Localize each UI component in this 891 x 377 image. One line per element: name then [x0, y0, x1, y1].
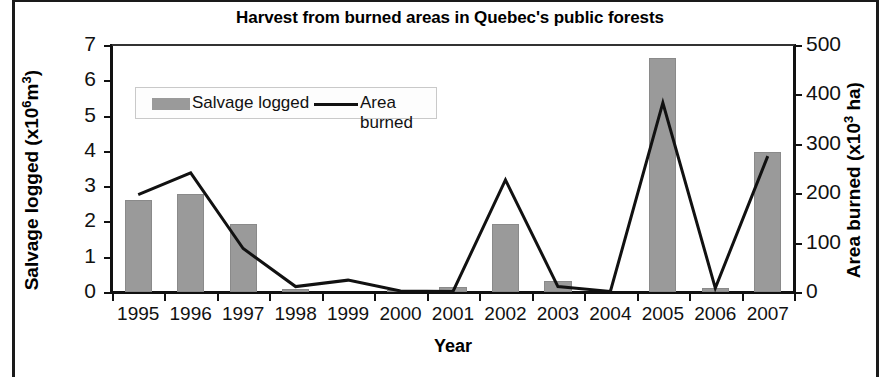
x-axis-tick-label: 2000: [373, 303, 429, 325]
y-axis-left-tick-label: 3: [68, 173, 96, 197]
y-axis-left-tick: [104, 186, 112, 188]
y-axis-right-tick: [794, 193, 802, 195]
y-axis-left-title-exp2: 3: [19, 76, 34, 83]
y-axis-left-title-text: Salvage logged (x10: [21, 108, 42, 291]
x-axis-tick: [322, 292, 324, 301]
x-axis-tick: [374, 292, 376, 301]
y-axis-left-tick: [104, 221, 112, 223]
x-axis-tick: [637, 292, 639, 301]
plot-area: [112, 45, 794, 292]
chart-legend: Salvage logged Area burned: [135, 87, 437, 119]
y-axis-right-tick-label: 500: [806, 32, 841, 56]
x-axis-tick-label: 2003: [530, 303, 586, 325]
y-axis-right-tick-label: 300: [806, 131, 841, 155]
y-axis-left-tick: [104, 151, 112, 153]
y-axis-right-tick-label: 100: [806, 230, 841, 254]
figure-border-left: [12, 0, 15, 377]
y-axis-right-title: Area burned (x103 ha): [841, 45, 865, 315]
y-axis-left-title: Salvage logged (x106m3): [19, 45, 43, 315]
figure-border-right: [876, 0, 879, 377]
y-axis-right-tick: [794, 144, 802, 146]
y-axis-right-tick: [794, 243, 802, 245]
y-axis-right-tick: [794, 94, 802, 96]
x-axis-tick: [217, 292, 219, 301]
line-series-area-burned: [112, 45, 794, 292]
x-axis-tick: [794, 292, 796, 301]
y-axis-right-title-exp: 3: [841, 116, 856, 123]
x-axis-tick-label: 1998: [268, 303, 324, 325]
x-axis-tick: [427, 292, 429, 301]
x-axis-tick-label: 1997: [215, 303, 271, 325]
y-axis-right-tick: [794, 45, 802, 47]
y-axis-left-tick: [104, 292, 112, 294]
x-axis-tick-label: 1996: [163, 303, 219, 325]
x-axis-tick: [112, 292, 114, 301]
legend-label-area-burned: Area burned: [360, 93, 436, 133]
y-axis-right-tick-label: 0: [806, 279, 818, 303]
y-axis-left-tick-label: 1: [68, 244, 96, 268]
x-axis-tick: [689, 292, 691, 301]
y-axis-left-tick-label: 2: [68, 208, 96, 232]
y-axis-left-tick: [104, 257, 112, 259]
y-axis-left-tick-label: 7: [68, 32, 96, 56]
x-axis-tick-label: 1995: [110, 303, 166, 325]
legend-line-area-burned: [314, 103, 358, 106]
x-axis-tick: [269, 292, 271, 301]
figure-border-top: [12, 0, 879, 2]
y-axis-right-title-text: Area burned (x10: [843, 123, 864, 278]
y-axis-left-title-tail: m: [21, 84, 42, 101]
y-axis-left-tick-label: 4: [68, 138, 96, 162]
y-axis-left-tick-label: 5: [68, 103, 96, 127]
y-axis-left-tick: [104, 45, 112, 47]
x-axis-tick-label: 2007: [740, 303, 796, 325]
legend-swatch-salvage-logged: [152, 98, 190, 110]
y-axis-right-tick-label: 200: [806, 180, 841, 204]
x-axis-tick-label: 2004: [582, 303, 638, 325]
y-axis-left-tick-label: 6: [68, 67, 96, 91]
x-axis-tick-label: 2005: [635, 303, 691, 325]
x-axis-tick: [584, 292, 586, 301]
y-axis-left-tick: [104, 116, 112, 118]
chart-figure: Harvest from burned areas in Quebec's pu…: [0, 0, 891, 377]
y-axis-left-tick: [104, 80, 112, 82]
x-axis-tick: [532, 292, 534, 301]
x-axis-tick-label: 2006: [687, 303, 743, 325]
x-axis-tick-label: 2002: [477, 303, 533, 325]
legend-label-salvage-logged: Salvage logged: [192, 93, 309, 113]
y-axis-left-title-exp1: 6: [19, 100, 34, 107]
y-axis-right-title-close: ha): [843, 82, 864, 116]
x-axis-tick: [479, 292, 481, 301]
x-axis-tick: [164, 292, 166, 301]
y-axis-right-tick-label: 400: [806, 81, 841, 105]
x-axis-tick: [742, 292, 744, 301]
x-axis-tick-label: 1999: [320, 303, 376, 325]
x-axis-tick-label: 2001: [425, 303, 481, 325]
x-axis-title: Year: [112, 336, 794, 357]
y-axis-left-title-close: ): [21, 70, 42, 76]
chart-title: Harvest from burned areas in Quebec's pu…: [60, 8, 840, 28]
y-axis-left-tick-label: 0: [68, 279, 96, 303]
